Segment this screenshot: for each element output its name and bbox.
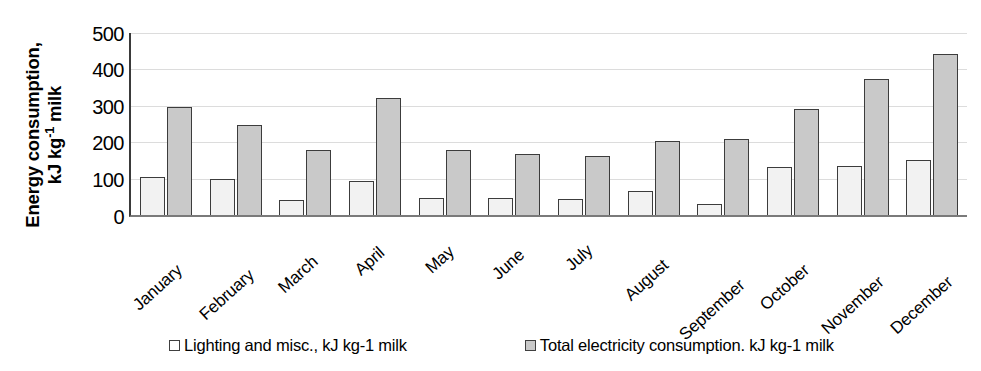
bar-series-1 (140, 177, 165, 215)
bar-series-1 (349, 181, 374, 215)
y-tick-500: 500 (72, 24, 124, 44)
bar-series-2 (167, 107, 192, 215)
bar-group (688, 33, 758, 215)
x-tick-label: July (583, 221, 618, 256)
bar-group (619, 33, 689, 215)
y-axis-title-exponent: -1 (43, 127, 57, 138)
bar-series-1 (906, 160, 931, 215)
chart-legend: Lighting and misc., kJ kg-1 milk Total e… (129, 330, 965, 360)
legend-swatch-icon-total-electricity (525, 340, 536, 351)
y-axis-title-line2-suffix: milk (45, 86, 66, 127)
x-tick-cell: March (268, 217, 338, 312)
bar-group (270, 33, 340, 215)
x-tick-cell: June (477, 217, 547, 312)
bar-series-1 (628, 191, 653, 215)
x-tick-cell: December (895, 217, 965, 312)
bar-series-1 (837, 166, 862, 216)
bar-series-1 (279, 200, 304, 215)
x-tick-cell: May (408, 217, 478, 312)
x-tick-cell: September (686, 217, 756, 312)
bar-group (897, 33, 967, 215)
plot-area (129, 33, 967, 217)
bar-series-2 (237, 125, 262, 215)
bar-series-2 (933, 54, 958, 215)
x-tick-label: December (944, 221, 981, 287)
bar-chart-figure: Energy consumption, kJ kg-1 milk 500 400… (0, 0, 981, 371)
bar-series-2 (446, 150, 471, 215)
y-axis-title-line1: Energy consumption, (22, 42, 43, 227)
y-tick-400: 400 (72, 60, 124, 80)
y-tick-100: 100 (72, 170, 124, 190)
bar-series-1 (210, 179, 235, 215)
y-axis-tick-labels: 500 400 300 200 100 0 (72, 0, 124, 371)
bar-groups (131, 33, 967, 215)
bar-series-2 (864, 79, 889, 216)
x-tick-cell: July (547, 217, 617, 312)
bar-group (828, 33, 898, 215)
bar-series-2 (306, 150, 331, 215)
y-axis-title: Energy consumption, kJ kg-1 milk (14, 5, 74, 265)
x-tick-cell: August (617, 217, 687, 312)
bar-group (131, 33, 201, 215)
x-axis-tick-labels: JanuaryFebruaryMarchAprilMayJuneJulyAugu… (129, 217, 965, 312)
legend-label-total-electricity: Total electricity consumption. kJ kg-1 m… (540, 336, 834, 355)
bar-group (479, 33, 549, 215)
y-tick-0: 0 (72, 207, 124, 227)
y-tick-300: 300 (72, 97, 124, 117)
x-tick-cell: October (756, 217, 826, 312)
bar-series-1 (697, 204, 722, 215)
bar-series-2 (376, 98, 401, 215)
legend-label-lighting: Lighting and misc., kJ kg-1 milk (184, 336, 407, 355)
bar-group (758, 33, 828, 215)
y-axis-title-line2-prefix: kJ kg (45, 138, 66, 184)
x-tick-cell: November (826, 217, 896, 312)
bar-series-1 (419, 198, 444, 215)
bar-group (201, 33, 271, 215)
bar-series-1 (488, 198, 513, 215)
bar-group (410, 33, 480, 215)
x-tick-cell: February (199, 217, 269, 312)
bar-series-2 (515, 154, 540, 215)
bar-series-2 (724, 139, 749, 215)
bar-series-1 (767, 167, 792, 215)
y-tick-200: 200 (72, 133, 124, 153)
legend-item-total-electricity: Total electricity consumption. kJ kg-1 m… (525, 336, 834, 355)
bar-group (340, 33, 410, 215)
bar-series-2 (655, 141, 680, 215)
legend-swatch-icon-lighting (169, 340, 180, 351)
bar-group (549, 33, 619, 215)
bar-series-2 (585, 156, 610, 215)
bar-series-1 (558, 199, 583, 215)
x-tick-cell: January (129, 217, 199, 312)
legend-item-lighting: Lighting and misc., kJ kg-1 milk (169, 336, 407, 355)
x-tick-cell: April (338, 217, 408, 312)
x-tick-label: May (445, 221, 482, 257)
bar-series-2 (794, 109, 819, 215)
